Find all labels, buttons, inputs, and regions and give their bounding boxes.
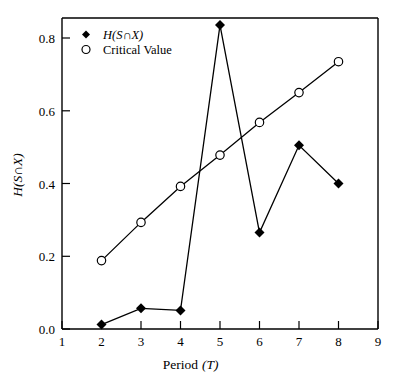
y-axis-ticks (62, 38, 70, 329)
x-tick-label-5: 5 (217, 334, 224, 349)
line-chart: 0.0 0.2 0.4 0.6 0.8 1 2 3 4 5 6 7 (0, 0, 393, 379)
data-point-critical-7 (295, 88, 303, 96)
x-axis-ticks (62, 321, 378, 329)
x-axis-title: Period (T) (163, 357, 219, 372)
y-tick-label-2: 0.4 (39, 177, 56, 192)
data-point-hsx-6 (255, 228, 265, 238)
data-point-critical-4 (176, 182, 184, 190)
x-tick-label-1: 1 (59, 334, 66, 349)
x-tick-label-4: 4 (177, 334, 184, 349)
series-h-s-x-line (102, 25, 339, 325)
data-point-critical-2 (97, 256, 105, 264)
x-tick-label-7: 7 (296, 334, 303, 349)
x-tick-label-6: 6 (256, 334, 263, 349)
legend-marker-filled-diamond-icon (82, 31, 90, 39)
data-point-hsx-5 (215, 20, 225, 30)
y-tick-label-4: 0.8 (39, 31, 55, 46)
series-h-s-x (97, 20, 344, 330)
legend-marker-open-circle-icon (82, 46, 90, 54)
y-axis-title: H(S∩X) (10, 153, 25, 198)
y-axis-tick-labels: 0.0 0.2 0.4 0.6 0.8 (39, 31, 56, 337)
x-axis-title-main: Period (163, 357, 198, 372)
data-point-hsx-2 (97, 320, 107, 330)
legend-label-h-s-x: H(S∩X) (102, 28, 143, 42)
x-tick-label-8: 8 (335, 334, 342, 349)
x-axis-title-symbol: (T) (202, 357, 219, 372)
y-tick-label-3: 0.6 (39, 104, 56, 119)
x-axis-tick-labels: 1 2 3 4 5 6 7 8 9 (59, 334, 382, 349)
data-point-critical-8 (334, 58, 342, 66)
y-tick-label-1: 0.2 (39, 249, 55, 264)
chart-figure: 0.0 0.2 0.4 0.6 0.8 1 2 3 4 5 6 7 (0, 0, 393, 379)
x-tick-label-3: 3 (138, 334, 145, 349)
series-critical-value (97, 58, 342, 265)
plot-frame (62, 18, 378, 329)
x-tick-label-2: 2 (98, 334, 105, 349)
legend-label-critical-value: Critical Value (103, 43, 172, 57)
chart-legend: H(S∩X) Critical Value (82, 28, 172, 57)
data-point-hsx-4 (176, 305, 186, 315)
data-point-critical-3 (137, 218, 145, 226)
y-axis-title-text: H(S∩X) (10, 153, 25, 198)
data-point-hsx-3 (136, 303, 146, 313)
data-point-critical-5 (216, 151, 224, 159)
data-point-critical-6 (255, 118, 263, 126)
y-tick-label-0: 0.0 (39, 322, 55, 337)
x-tick-label-9: 9 (375, 334, 382, 349)
